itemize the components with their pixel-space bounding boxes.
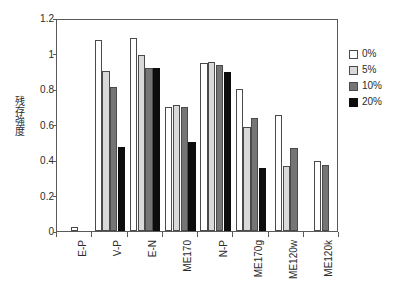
x-tick-mark [268, 232, 269, 237]
bar [290, 148, 297, 231]
x-tick-mark [197, 232, 198, 237]
x-tick-mark [91, 232, 92, 237]
bar [188, 142, 195, 231]
y-tick-label: 0.4 [28, 156, 54, 166]
bar [259, 168, 266, 231]
legend-item: 20% [349, 94, 395, 110]
bar [216, 65, 223, 231]
x-axis-label-me120w: ME120w [289, 240, 299, 279]
legend-swatch-icon [349, 66, 358, 75]
legend-label: 5% [362, 65, 376, 75]
legend-item: 5% [349, 62, 395, 78]
x-tick-mark [303, 232, 304, 237]
x-tick-mark [338, 232, 339, 237]
legend-swatch-icon [349, 82, 358, 91]
plot-area [56, 19, 338, 232]
y-tick-label: 1 [28, 50, 54, 60]
bar [208, 62, 215, 232]
bar [145, 68, 152, 231]
x-axis-category-labels: E-PV-PE-NME170N-PME170gME120wME120k [56, 238, 338, 300]
legend-label: 10% [362, 81, 382, 91]
bar [165, 107, 172, 231]
x-axis-label-e-p: E-P [78, 240, 88, 257]
legend-item: 10% [349, 78, 395, 94]
bar [314, 161, 321, 231]
y-tick-label: 0.6 [28, 121, 54, 131]
legend-label: 20% [362, 97, 382, 107]
y-tick-label: 0.8 [28, 85, 54, 95]
y-tick-label: 0.2 [28, 192, 54, 202]
bar [322, 165, 329, 231]
bar [181, 107, 188, 231]
bar [118, 147, 125, 231]
y-tick-label: 0 [28, 227, 54, 237]
bar [153, 68, 160, 231]
bar [71, 227, 78, 231]
bar [236, 89, 243, 231]
bar [243, 127, 250, 231]
x-tick-mark [56, 232, 57, 237]
x-axis-label-e-n: E-N [148, 240, 158, 257]
bar [173, 105, 180, 231]
bar [224, 72, 231, 231]
x-axis-label-me120k: ME120k [324, 240, 334, 277]
x-tick-mark [162, 232, 163, 237]
x-axis-label-n-p: N-P [219, 240, 229, 257]
y-axis-tick-labels: 00.20.40.60.811.2 [26, 0, 54, 301]
legend-label: 0% [362, 49, 376, 59]
bar [110, 87, 117, 231]
x-axis-label-me170g: ME170g [254, 240, 264, 277]
bar [130, 38, 137, 231]
bar [102, 71, 109, 231]
bar [200, 63, 207, 231]
x-axis-label-me170: ME170 [183, 240, 193, 272]
x-axis-label-v-p: V-P [113, 240, 123, 256]
legend-item: 0% [349, 46, 395, 62]
bar [283, 166, 290, 231]
x-tick-mark [232, 232, 233, 237]
bar [138, 55, 145, 231]
legend-swatch-icon [349, 50, 358, 59]
x-tick-mark [127, 232, 128, 237]
y-axis-title: 残存強度 [8, 96, 24, 136]
legend-swatch-icon [349, 98, 358, 107]
bars-layer [57, 20, 337, 231]
bar [251, 118, 258, 231]
bar [95, 40, 102, 231]
legend: 0%5%10%20% [349, 46, 395, 110]
bar [275, 115, 282, 231]
bar-chart: 残存強度 00.20.40.60.811.2 E-PV-PE-NME170N-P… [0, 0, 395, 301]
y-tick-label: 1.2 [28, 14, 54, 24]
